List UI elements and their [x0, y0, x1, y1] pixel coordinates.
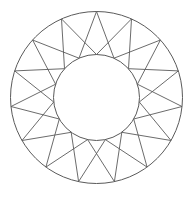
star-spoke-line — [11, 107, 59, 120]
star-spoke-line — [33, 40, 56, 84]
star-spoke-line — [139, 71, 178, 102]
star-spoke-line — [134, 107, 182, 120]
star-ring-svg — [0, 0, 195, 202]
star-spoke-line — [62, 19, 65, 69]
star-spoke-line — [129, 19, 132, 69]
inner-circle — [54, 55, 140, 141]
star-spoke-line — [22, 102, 54, 141]
star-spoke-line — [11, 84, 56, 106]
star-spoke-line — [114, 132, 121, 181]
star-spoke-line — [129, 69, 179, 71]
star-spoke-line — [15, 71, 54, 102]
outer-circle — [11, 12, 183, 184]
star-spoke-line — [139, 102, 171, 141]
star-spoke-line — [137, 40, 160, 84]
star-spoke-line — [114, 40, 160, 58]
star-ring-diagram — [0, 0, 195, 202]
star-spoke-line — [22, 132, 71, 140]
star-spoke-line — [33, 40, 79, 58]
star-spoke-line — [137, 84, 182, 106]
star-spokes — [11, 12, 182, 182]
star-spoke-line — [15, 69, 65, 71]
star-spoke-line — [71, 132, 78, 181]
star-spoke-line — [122, 132, 171, 140]
